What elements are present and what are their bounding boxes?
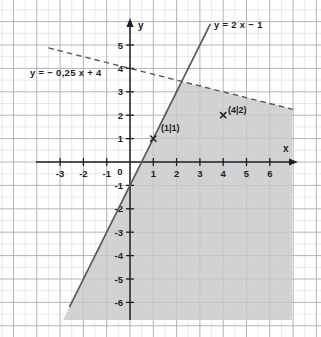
x-tick-label: 3 xyxy=(197,168,202,179)
y-tick-label: 2 xyxy=(118,110,123,121)
x-tick-label: -3 xyxy=(56,168,64,179)
x-tick-label: -2 xyxy=(79,168,87,179)
y-tick-label: -5 xyxy=(115,274,124,285)
y-tick-label: -3 xyxy=(115,227,123,238)
x-tick-label: -1 xyxy=(102,168,111,179)
x-tick-label: 1 xyxy=(151,168,157,179)
y-tick-label: -4 xyxy=(115,250,124,261)
origin-label: 0 xyxy=(117,166,122,177)
x-tick-label: 4 xyxy=(221,168,227,179)
x-axis-label: x xyxy=(283,143,289,154)
y-tick-label: 3 xyxy=(118,86,123,97)
y-tick-label: 1 xyxy=(118,133,124,144)
y-tick-label: -1 xyxy=(115,180,124,191)
x-tick-label: 2 xyxy=(174,168,179,179)
equation-label-dashed-line: y = − 0,25 x + 4 xyxy=(30,67,102,78)
coordinate-plot-figure: -3-2-1123456-6-5-4-3-2-112345 x y 0 y = … xyxy=(0,0,321,337)
x-tick-label: 5 xyxy=(244,168,250,179)
point-label-4-2: (4|2) xyxy=(228,105,247,115)
y-tick-label: 4 xyxy=(118,63,124,74)
y-tick-label: 5 xyxy=(118,40,124,51)
y-tick-label: -6 xyxy=(115,297,123,308)
plot-canvas: -3-2-1123456-6-5-4-3-2-112345 x y 0 y = … xyxy=(0,0,321,337)
y-axis-label: y xyxy=(138,20,144,31)
equation-label-solid-line: y = 2 x − 1 xyxy=(214,19,263,30)
x-tick-label: 6 xyxy=(267,168,272,179)
point-label-1-1: (1|1) xyxy=(161,123,180,133)
